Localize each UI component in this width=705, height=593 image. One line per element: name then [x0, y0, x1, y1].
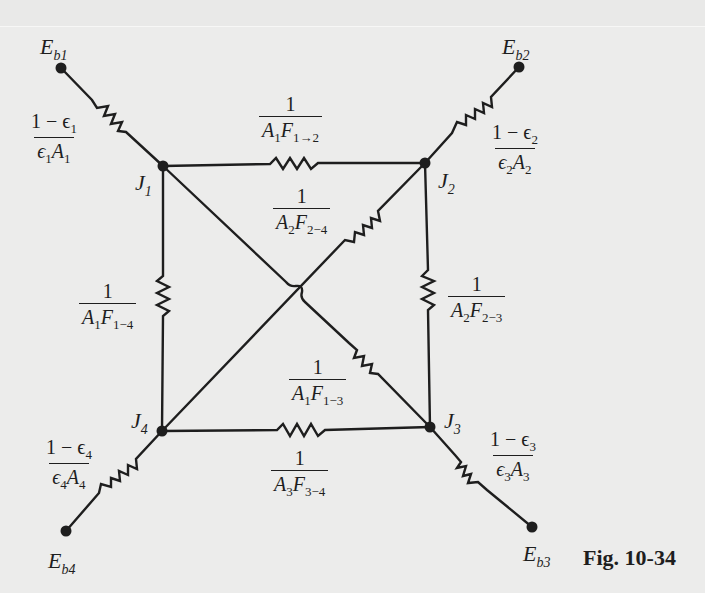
node-eb1-dot: [56, 63, 67, 74]
node-j4-dot: [157, 426, 168, 437]
space-resistance-34: 1 A3F3−4: [271, 448, 328, 498]
node-eb2-dot: [514, 62, 525, 73]
node-j3-dot: [425, 422, 436, 433]
label-j3: J3: [444, 410, 461, 437]
surface-resistance-1: 1 − ϵ1 ϵ1A1: [29, 111, 79, 165]
space-resistance-12: 1 A1F1→2: [259, 94, 322, 144]
label-j1: J1: [135, 172, 152, 199]
node-eb3-dot: [527, 522, 538, 533]
label-eb2: Eb2: [502, 36, 529, 63]
figure-caption: Fig. 10-34: [583, 545, 676, 571]
label-eb4: Eb4: [48, 550, 75, 577]
space-resistance-24: 1 A2F2−4: [273, 186, 330, 236]
resistor-space-34: [162, 424, 430, 436]
label-j4: J4: [131, 410, 148, 437]
label-j2: J2: [438, 170, 455, 197]
surface-resistance-4: 1 − ϵ4 ϵ4A4: [44, 437, 94, 491]
label-eb1: Eb1: [40, 36, 67, 63]
node-j2-dot: [420, 158, 431, 169]
surface-resistance-2: 1 − ϵ2 ϵ2A2: [490, 122, 540, 176]
space-resistance-14: 1 A1F1−4: [79, 281, 136, 331]
label-eb3: Eb3: [523, 543, 550, 570]
resistor-space-12: [163, 158, 425, 169]
surface-resistance-3: 1 − ϵ3 ϵ3A3: [488, 429, 538, 483]
resistor-space-23: [422, 163, 434, 427]
resistor-space-14: [157, 166, 169, 431]
node-j1-dot: [158, 161, 169, 172]
space-resistance-23: 1 A2F2−3: [448, 274, 505, 324]
node-eb4-dot: [61, 526, 72, 537]
space-resistance-13: 1 A1F1−3: [289, 357, 346, 407]
